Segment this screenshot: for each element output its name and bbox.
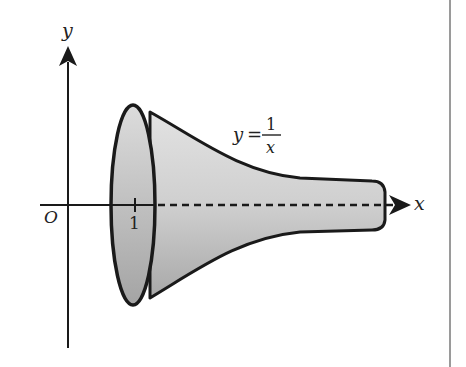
y-axis-label: y [61,19,73,41]
equation-lhs: y [232,124,244,145]
x-axis-label: x [414,192,425,214]
equation-denominator: x [266,138,275,157]
equation-equals: = [247,124,262,145]
x-tick-label-one: 1 [129,213,140,233]
equation-numerator: 1 [266,115,276,134]
curve-equation-label: y = 1 x [232,115,281,157]
gabriels-horn-figure: y x O 1 y = 1 x [0,0,466,367]
y-axis [59,46,77,348]
origin-label: O [44,207,58,227]
